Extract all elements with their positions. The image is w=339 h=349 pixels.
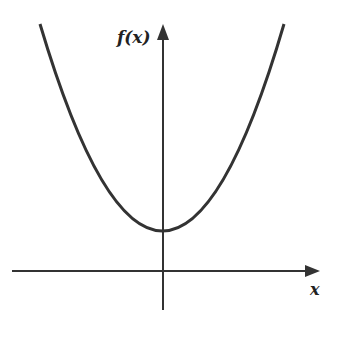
y-axis-arrow-icon bbox=[157, 24, 169, 40]
y-axis-label: f(x) bbox=[116, 27, 151, 47]
x-axis-arrow-icon bbox=[305, 265, 320, 277]
x-axis-label: x bbox=[309, 280, 320, 299]
y-axis bbox=[157, 24, 169, 310]
x-axis bbox=[12, 265, 320, 277]
graph-canvas: f(x) x bbox=[0, 0, 339, 349]
